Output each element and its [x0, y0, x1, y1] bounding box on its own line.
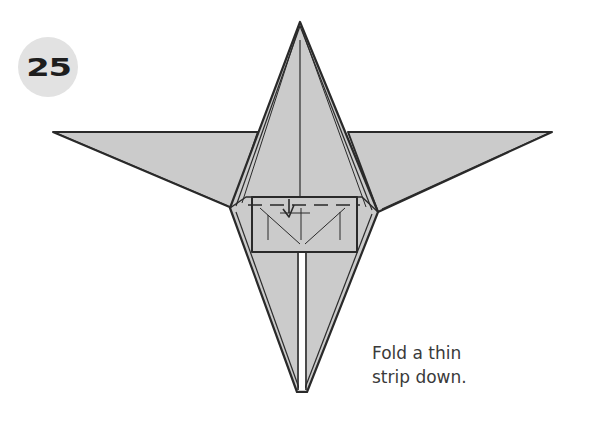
instruction-line: Fold a thin: [372, 341, 467, 365]
right-wing: [348, 132, 552, 212]
origami-diagram: [0, 0, 591, 425]
left-wing: [53, 132, 258, 208]
instruction-caption: Fold a thin strip down.: [372, 341, 467, 389]
instruction-line: strip down.: [372, 365, 467, 389]
